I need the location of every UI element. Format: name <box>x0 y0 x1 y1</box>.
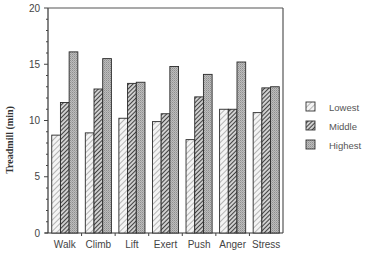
bar-highest-walk <box>69 52 78 233</box>
legend-swatch-middle <box>306 121 315 130</box>
bar-middle-push <box>195 97 204 233</box>
x-tick-label: Push <box>188 239 211 250</box>
bar-middle-stress <box>262 88 271 233</box>
bar-highest-anger <box>237 62 246 233</box>
legend-swatch-lowest <box>306 102 315 111</box>
bar-highest-climb <box>103 59 112 233</box>
legend: LowestMiddleHighest <box>306 102 362 151</box>
bar-chart: 05101520WalkClimbLiftExertPushAngerStres… <box>0 0 368 275</box>
bar-highest-push <box>203 74 212 233</box>
bar-lowest-anger <box>220 109 229 233</box>
y-tick-label: 20 <box>29 3 41 14</box>
bar-middle-walk <box>60 103 69 234</box>
y-tick-label: 0 <box>34 228 40 239</box>
y-axis-label: Treadmill (min) <box>4 106 16 174</box>
x-tick-label: Walk <box>54 239 77 250</box>
legend-label-middle: Middle <box>329 121 357 132</box>
y-tick-label: 15 <box>29 59 41 70</box>
x-tick-label: Anger <box>219 239 246 250</box>
y-tick-label: 10 <box>29 115 41 126</box>
x-tick-label: Lift <box>125 239 139 250</box>
bar-middle-climb <box>94 89 103 233</box>
legend-label-highest: Highest <box>329 140 362 151</box>
bar-lowest-lift <box>119 118 128 233</box>
plot-area: 05101520WalkClimbLiftExertPushAngerStres… <box>29 3 283 251</box>
bar-middle-exert <box>161 114 170 233</box>
bar-highest-stress <box>271 87 280 233</box>
y-tick-label: 5 <box>34 171 40 182</box>
bar-middle-lift <box>128 83 137 233</box>
x-tick-label: Exert <box>154 239 178 250</box>
bar-middle-anger <box>228 109 237 233</box>
bar-highest-exert <box>170 67 179 234</box>
bar-lowest-climb <box>85 133 94 233</box>
x-tick-label: Climb <box>86 239 112 250</box>
legend-swatch-highest <box>306 140 315 149</box>
bar-lowest-stress <box>253 113 262 233</box>
x-tick-label: Stress <box>252 239 280 250</box>
bar-lowest-exert <box>152 122 161 233</box>
bar-lowest-walk <box>52 135 61 233</box>
bar-highest-lift <box>136 82 145 233</box>
legend-label-lowest: Lowest <box>329 102 359 113</box>
bar-lowest-push <box>186 140 195 233</box>
